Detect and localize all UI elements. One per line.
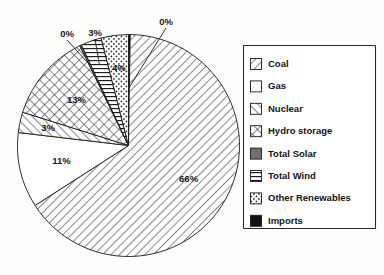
legend-label-imports: Imports	[268, 215, 303, 226]
slice-label-gas: 11%	[52, 155, 71, 166]
legend-swatch-other-renewables	[251, 193, 262, 204]
chart-canvas: 0%66%11%3%13%0%3%4% CoalGasNuclearHydro …	[0, 0, 384, 275]
legend-label-total-wind: Total Wind	[268, 170, 316, 181]
legend-item-gas[interactable]: Gas	[251, 80, 286, 91]
legend-swatch-imports	[251, 215, 262, 226]
legend-swatch-total-wind	[251, 171, 262, 182]
legend-label-total-solar: Total Solar	[268, 148, 317, 159]
legend-label-hydro-storage: Hydro storage	[268, 125, 332, 136]
slice-label-total-solar: 0%	[60, 28, 74, 39]
legend-label-other-renewables: Other Renewables	[268, 192, 351, 203]
legend-item-total-wind[interactable]: Total Wind	[251, 170, 316, 181]
legend-swatch-nuclear	[251, 103, 262, 114]
legend-item-total-solar[interactable]: Total Solar	[251, 148, 317, 159]
legend-item-coal[interactable]: Coal	[251, 58, 289, 69]
pie-slices-group	[17, 34, 239, 256]
legend-item-nuclear[interactable]: Nuclear	[251, 103, 304, 114]
legend-swatch-total-solar	[251, 148, 262, 159]
slice-label-total-wind: 3%	[88, 27, 102, 38]
slice-label-other-renewables: 4%	[112, 62, 126, 73]
legend: CoalGasNuclearHydro storageTotal SolarTo…	[244, 46, 376, 229]
slice-label-nuclear: 3%	[41, 122, 55, 133]
legend-label-nuclear: Nuclear	[268, 103, 303, 114]
legend-swatch-gas	[251, 81, 262, 92]
slice-label-imports: 0%	[159, 16, 173, 27]
legend-label-gas: Gas	[268, 80, 286, 91]
pie-chart-figure: 0%66%11%3%13%0%3%4% CoalGasNuclearHydro …	[0, 0, 384, 275]
slice-label-hydro-storage: 13%	[67, 94, 87, 105]
slice-label-coal: 66%	[179, 173, 199, 184]
legend-label-coal: Coal	[268, 58, 289, 69]
legend-swatch-hydro-storage	[251, 126, 262, 137]
legend-swatch-coal	[251, 59, 262, 70]
legend-item-imports[interactable]: Imports	[251, 215, 303, 226]
